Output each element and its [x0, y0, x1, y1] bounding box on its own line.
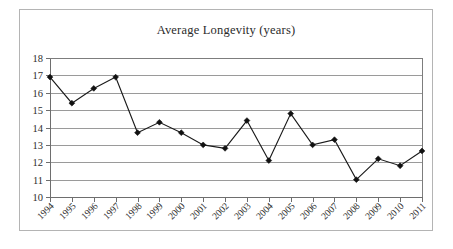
y-tick-label: 16: [33, 88, 44, 99]
x-tick-label: 1999: [144, 200, 165, 221]
x-tick-label: 2010: [385, 200, 406, 221]
x-tick-label: 1995: [57, 200, 78, 221]
y-tick-label: 15: [33, 105, 44, 116]
y-tick-label: 13: [33, 140, 44, 151]
x-tick-label: 2009: [363, 200, 384, 221]
chart-frame: Average Longevity (years) 10111213141516…: [19, 9, 433, 231]
x-axis-tickmarks: [51, 198, 423, 202]
y-tick-label: 14: [33, 123, 44, 134]
y-tick-label: 18: [33, 53, 44, 64]
x-tick-label: 1994: [35, 200, 56, 221]
x-tick-label: 1996: [79, 200, 100, 221]
y-tick-label: 11: [33, 175, 43, 186]
x-tick-label: 2011: [407, 200, 428, 221]
x-tick-label: 1997: [101, 200, 122, 221]
gridlines-group: [50, 59, 422, 198]
y-axis-tick-labels: 101112131415161718: [33, 53, 44, 203]
data-point-marker: [200, 142, 206, 148]
x-tick-label: 2001: [188, 200, 209, 221]
x-tick-label: 2006: [298, 200, 319, 221]
y-tick-label: 17: [33, 70, 44, 81]
data-point-marker: [157, 119, 163, 125]
data-point-marker: [178, 130, 184, 136]
x-tick-label: 1998: [123, 200, 144, 221]
x-axis-tick-labels: 1994199519961997199819992000200120022003…: [35, 200, 428, 221]
x-tick-label: 2005: [276, 200, 297, 221]
y-tick-label: 10: [33, 192, 44, 203]
x-tick-label: 2003: [232, 200, 253, 221]
line-chart-plot: 101112131415161718 199419951996199719981…: [20, 10, 434, 232]
y-tick-label: 12: [33, 157, 44, 168]
x-tick-label: 2007: [319, 200, 340, 221]
x-tick-label: 2008: [341, 200, 362, 221]
data-point-marker: [332, 137, 338, 143]
x-tick-label: 2004: [254, 200, 275, 221]
data-point-marker: [135, 130, 141, 136]
x-tick-label: 2002: [210, 200, 231, 221]
x-tick-label: 2000: [166, 200, 187, 221]
